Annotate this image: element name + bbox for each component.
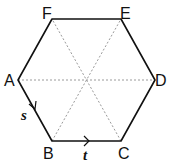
vertex-label-b: B	[43, 145, 54, 162]
vertex-label-a: A	[4, 72, 15, 89]
vertex-label-f: F	[42, 5, 52, 22]
vector-label-s: s	[20, 107, 27, 123]
vertex-label-d: D	[155, 72, 167, 89]
vertex-label-e: E	[120, 5, 131, 22]
vertex-label-c: C	[118, 145, 130, 162]
vector-label-t: t	[83, 147, 88, 163]
hexagon-diagram: F E D C B A s t	[0, 0, 173, 164]
diagonals	[18, 19, 155, 141]
